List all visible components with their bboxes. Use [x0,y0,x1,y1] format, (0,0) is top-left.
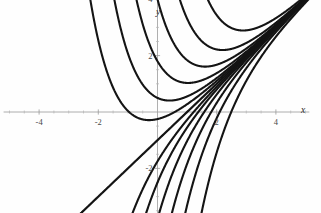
solution-curve [124,0,314,213]
plot-canvas: -4-22442-2-4 x y [0,0,321,213]
solution-curve [103,0,314,101]
y-tick-label: -2 [145,163,152,173]
plot-figure: -4-22442-2-4 x y [0,0,321,213]
y-tick-label: 2 [148,51,152,61]
x-tick-label: -2 [95,117,102,127]
curve-group [4,0,315,213]
x-axis-label: x [300,105,306,115]
solution-curve [139,0,314,213]
x-tick-label: 2 [215,117,219,127]
x-tick-label: -4 [36,117,44,127]
y-tick-label: 4 [148,0,153,4]
solution-curve [169,0,314,213]
x-tick-label: 4 [274,117,279,127]
solution-curve [186,0,314,213]
y-axis-label: y [155,7,161,17]
solution-curve [107,0,314,213]
